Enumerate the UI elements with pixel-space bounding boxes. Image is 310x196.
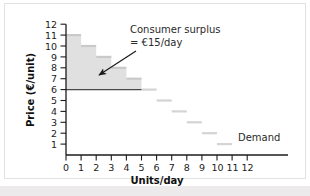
y-tick-1: 1 (51, 139, 57, 150)
x-tick-0: 0 (63, 162, 69, 173)
x-axis-title: Units/day (130, 175, 184, 186)
y-tick-2: 2 (51, 128, 57, 139)
x-tick-labels: 0 1 2 3 4 5 6 7 8 9 10 11 12 (63, 162, 254, 173)
x-tick-1: 1 (78, 162, 84, 173)
y-tick-8: 8 (51, 62, 57, 73)
y-axis (61, 24, 67, 155)
consumer-surplus-annotation-line1: Consumer surplus (130, 24, 221, 35)
y-tick-5: 5 (51, 95, 57, 106)
y-tick-4: 4 (51, 106, 57, 117)
x-tick-3: 3 (108, 162, 114, 173)
consumer-surplus-annotation-line2: = €15/day (130, 37, 182, 48)
y-tick-3: 3 (51, 117, 57, 128)
x-tick-12: 12 (242, 162, 254, 173)
x-axis (66, 155, 288, 161)
y-tick-6: 6 (51, 84, 57, 95)
demand-curve-label: Demand (238, 132, 280, 143)
demand-step-curve-lower (142, 90, 233, 145)
x-tick-5: 5 (138, 162, 144, 173)
y-tick-11: 11 (45, 30, 57, 41)
x-tick-2: 2 (93, 162, 99, 173)
figure-container: 12 11 10 9 8 7 6 5 4 3 2 1 (0, 0, 310, 196)
y-tick-labels: 12 11 10 9 8 7 6 5 4 3 2 1 (45, 19, 57, 150)
x-tick-8: 8 (184, 162, 190, 173)
x-tick-9: 9 (199, 162, 205, 173)
x-tick-6: 6 (154, 162, 160, 173)
x-tick-10: 10 (212, 162, 224, 173)
y-tick-7: 7 (51, 73, 57, 84)
demand-consumer-surplus-chart: 12 11 10 9 8 7 6 5 4 3 2 1 (0, 0, 310, 196)
y-tick-9: 9 (51, 52, 57, 63)
y-tick-10: 10 (45, 41, 57, 52)
x-tick-4: 4 (123, 162, 129, 173)
x-tick-7: 7 (169, 162, 175, 173)
x-tick-11: 11 (227, 162, 239, 173)
y-tick-12: 12 (45, 19, 57, 30)
y-axis-title: Price (€/unit) (25, 53, 36, 127)
